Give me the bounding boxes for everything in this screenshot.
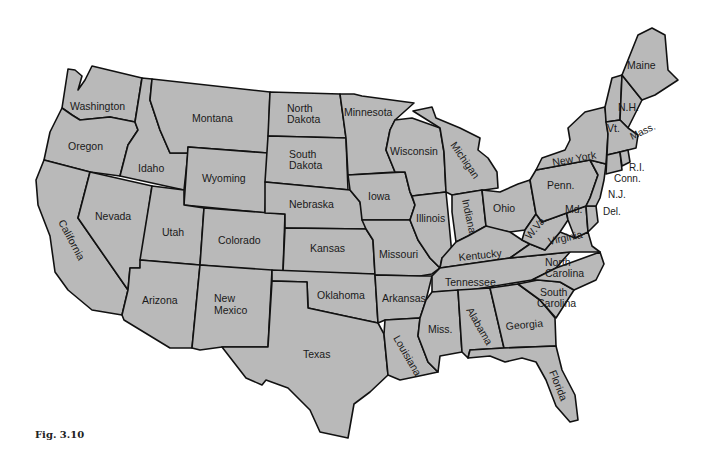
label-arkansas: Arkansas <box>382 292 426 304</box>
label-nevada: Nevada <box>95 210 131 222</box>
label-rhode-island: R.I. <box>629 162 645 173</box>
label-arizona: Arizona <box>142 294 178 306</box>
figure-caption: Fig. 3.10 <box>35 429 84 440</box>
label-iowa: Iowa <box>368 190 390 202</box>
label-missouri: Missouri <box>379 248 418 260</box>
us-states-map: Washington Oregon California Idaho Nevad… <box>0 0 710 465</box>
label-utah: Utah <box>162 226 184 238</box>
label-new-hampshire: N.H. <box>618 101 639 113</box>
label-minnesota: Minnesota <box>344 106 393 118</box>
label-oregon: Oregon <box>68 140 103 152</box>
label-tennessee: Tennessee <box>445 276 496 288</box>
label-north-carolina-2: Carolina <box>545 267 584 279</box>
label-wisconsin: Wisconsin <box>390 145 438 157</box>
label-new-mexico-1: New <box>214 292 235 304</box>
label-south-carolina-2: Carolina <box>537 297 576 309</box>
label-vermont: Vt. <box>607 122 620 134</box>
label-south-dakota-2: Dakota <box>289 159 322 171</box>
label-pennsylvania: Penn. <box>547 179 574 191</box>
label-colorado: Colorado <box>218 234 261 246</box>
label-maryland: Md. <box>565 203 583 215</box>
label-massachusetts: Mass. <box>628 121 657 142</box>
state-washington <box>62 66 142 122</box>
label-washington: Washington <box>70 100 125 112</box>
label-nebraska: Nebraska <box>289 198 334 210</box>
label-montana: Montana <box>192 112 233 124</box>
state-connecticut <box>606 152 622 174</box>
state-delaware <box>586 206 598 232</box>
label-oklahoma: Oklahoma <box>317 289 365 301</box>
label-illinois: Illinois <box>416 212 445 224</box>
label-new-jersey: N.J. <box>608 189 626 200</box>
label-delaware: Del. <box>603 206 621 217</box>
label-maine: Maine <box>627 59 656 71</box>
label-mississippi: Miss. <box>428 323 453 335</box>
label-idaho: Idaho <box>138 162 164 174</box>
label-new-mexico-2: Mexico <box>214 304 247 316</box>
label-wyoming: Wyoming <box>202 172 246 184</box>
label-texas: Texas <box>303 348 330 360</box>
label-ohio: Ohio <box>493 202 515 214</box>
label-north-dakota-2: Dakota <box>287 113 320 125</box>
label-kansas: Kansas <box>310 242 345 254</box>
label-connecticut: Conn. <box>614 173 641 184</box>
